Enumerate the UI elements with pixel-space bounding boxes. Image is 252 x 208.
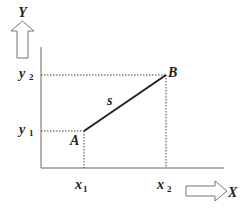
x1-tick-base: x <box>74 177 82 192</box>
x-direction-arrow-icon <box>186 181 227 201</box>
point-a-label: A <box>69 133 79 148</box>
y-direction-arrow-icon <box>11 21 34 58</box>
y-axis-label: Y <box>18 5 28 20</box>
y2-tick-sub: 2 <box>29 72 34 82</box>
segment-s-label: s <box>106 93 113 108</box>
x1-tick-sub: 1 <box>83 184 88 194</box>
x2-tick-sub: 2 <box>167 184 172 194</box>
y1-tick-sub: 1 <box>29 128 34 138</box>
x-axis-label: X <box>227 185 238 200</box>
segment-s <box>84 75 166 131</box>
coordinate-diagram: Y X A B s y 2 y 1 x 1 x 2 <box>0 0 252 208</box>
y1-tick-base: y <box>17 122 26 137</box>
point-b-label: B <box>167 65 177 80</box>
x2-tick-base: x <box>156 177 164 192</box>
y2-tick-base: y <box>17 66 26 81</box>
